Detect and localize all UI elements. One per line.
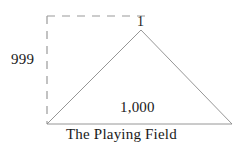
- figure-caption: The Playing Field: [66, 127, 177, 142]
- height-label: 999: [11, 52, 34, 67]
- base-label: 1,000: [120, 100, 155, 115]
- playing-field-figure: 999 1 1,000 The Playing Field: [0, 0, 250, 150]
- apex-label: 1: [137, 15, 144, 29]
